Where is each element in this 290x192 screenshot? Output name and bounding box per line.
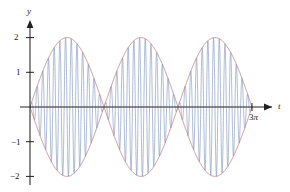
plot-canvas xyxy=(0,0,290,192)
y-tick-label-minus-1: −1 xyxy=(11,138,21,147)
beats-chart-figure: y t 2 1 −1 −2 3π xyxy=(0,0,290,192)
x-tick-label-3pi: 3π xyxy=(249,113,258,122)
y-tick-label-minus-2: −2 xyxy=(10,172,20,181)
y-tick-label-1: 1 xyxy=(16,68,21,77)
pi-symbol: π xyxy=(254,112,259,122)
x-axis-label: t xyxy=(278,102,281,111)
y-axis-label: y xyxy=(27,7,31,16)
y-tick-label-2: 2 xyxy=(14,33,19,42)
